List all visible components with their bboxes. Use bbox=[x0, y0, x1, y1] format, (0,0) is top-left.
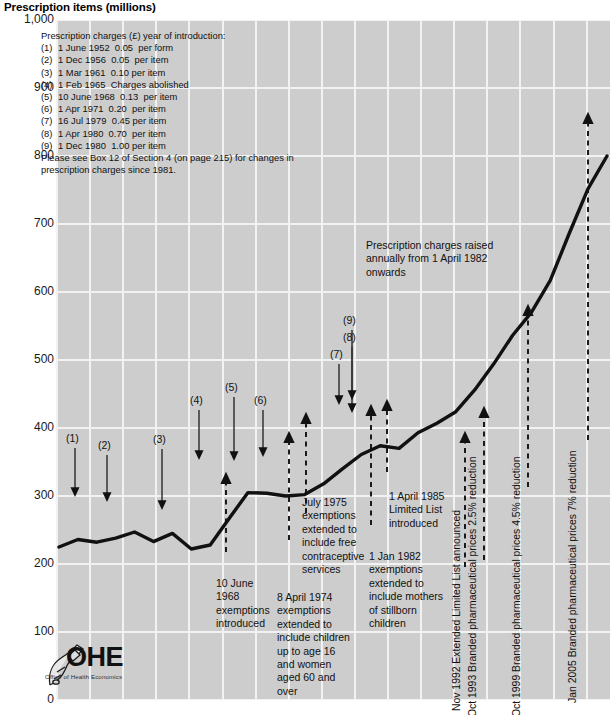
annotation-line: onwards bbox=[366, 266, 493, 279]
y-axis-tick-label: 200 bbox=[6, 556, 54, 570]
legend-row: (7)16 Jul 1979 0.45 per item bbox=[41, 115, 294, 127]
annotation-oct-1993-branded-prices: Oct 1993 Branded pharmaceutical prices 2… bbox=[467, 457, 478, 715]
legend-row: (4)1 Feb 1965 Charges abolished bbox=[41, 79, 294, 91]
annotation-jan-2005-branded-prices: Jan 2005 Branded pharmaceutical prices 7… bbox=[567, 451, 578, 703]
annotation-prescription-charges-raised: Prescription charges raisedannually from… bbox=[366, 239, 493, 279]
charge-marker-label: (7) bbox=[330, 348, 343, 360]
legend-row: (9)1 Dec 1980 1.00 per item bbox=[41, 140, 294, 152]
legend-row: (8)1 Apr 1980 0.70 per item bbox=[41, 128, 294, 140]
charge-marker-label: (3) bbox=[153, 433, 166, 445]
annotation-line: over bbox=[277, 685, 350, 698]
annotation-line: aged 60 and bbox=[277, 671, 350, 684]
charge-marker-label: (5) bbox=[225, 381, 238, 393]
annotation-line: introduced bbox=[389, 517, 444, 530]
annotation-line: services bbox=[302, 563, 364, 576]
annotation-line: extended to bbox=[302, 523, 364, 536]
annotation-line: of stillborn bbox=[369, 604, 443, 617]
annotation-line: include mothers bbox=[369, 590, 443, 603]
annotation-oct-1999-branded-prices: Oct 1999 Branded pharmaceutical prices 4… bbox=[511, 457, 522, 715]
y-axis-tick-label: 300 bbox=[6, 488, 54, 502]
charge-marker-label: (1) bbox=[66, 432, 79, 444]
y-axis-tick-label: 600 bbox=[6, 284, 54, 298]
annotation-july-1975-exemptions: July 1975exemptionsextended toinclude fr… bbox=[302, 496, 364, 576]
y-axis-tick-label: 1,000 bbox=[6, 12, 54, 26]
legend-footnote: Please see Box 12 of Section 4 (on page … bbox=[41, 152, 294, 164]
annotation-line: extended to bbox=[277, 618, 350, 631]
y-axis-tick-label: 100 bbox=[6, 624, 54, 638]
annotation-line: Prescription charges raised bbox=[366, 239, 493, 252]
charge-marker-label: (8) bbox=[343, 331, 356, 343]
annotation-ten-june-1968-exemptions: 10 June1968exemptionsintroduced bbox=[216, 577, 270, 631]
annotation-line: 1 April 1985 bbox=[389, 490, 444, 503]
annotation-line: children bbox=[369, 617, 443, 630]
annotation-line: exemptions bbox=[216, 604, 270, 617]
legend-footnote: prescription charges since 1981. bbox=[41, 164, 294, 176]
page-title: Prescription items (millions) bbox=[4, 1, 156, 13]
annotation-line: July 1975 bbox=[302, 496, 364, 509]
annotation-line: 8 April 1974 bbox=[277, 591, 350, 604]
annotation-nov-1992-extended-limited-list: Nov 1992 Extended Limited List announced bbox=[451, 510, 462, 711]
annotation-line: annually from 1 April 1982 bbox=[366, 252, 493, 265]
annotation-line: Limited List bbox=[389, 503, 444, 516]
annotation-line: extended to bbox=[369, 577, 443, 590]
annotation-line: contraceptive bbox=[302, 550, 364, 563]
annotation-line: exemptions bbox=[302, 509, 364, 522]
legend-row: (2)1 Dec 1956 0.05 per item bbox=[41, 54, 294, 66]
annotation-line: up to age 16 bbox=[277, 645, 350, 658]
annotation-line: 1968 bbox=[216, 590, 270, 603]
annotation-line: 1 Jan 1982 bbox=[369, 550, 443, 563]
annotation-line: exemptions bbox=[369, 563, 443, 576]
annotation-one-jan-1982-exemptions: 1 Jan 1982exemptionsextended toinclude m… bbox=[369, 550, 443, 630]
charge-marker-label: (4) bbox=[190, 394, 203, 406]
legend-box: Prescription charges (£) year of introdu… bbox=[41, 30, 294, 176]
y-axis-tick-label: 700 bbox=[6, 216, 54, 230]
charge-marker-label: (2) bbox=[98, 439, 111, 451]
annotation-line: include children bbox=[277, 631, 350, 644]
annotation-eight-april-1974-exemptions: 8 April 1974exemptionsextended toinclude… bbox=[277, 591, 350, 698]
annotation-line: 10 June bbox=[216, 577, 270, 590]
annotation-one-april-1985-limited-list: 1 April 1985Limited Listintroduced bbox=[389, 490, 444, 530]
legend-row: (5)10 June 1968 0.13 per item bbox=[41, 91, 294, 103]
legend-row: (3)1 Mar 1961 0.10 per item bbox=[41, 67, 294, 79]
charge-marker-label: (9) bbox=[343, 314, 356, 326]
y-axis-tick-label: 0 bbox=[6, 692, 54, 706]
legend-row: (6)1 Apr 1971 0.20 per item bbox=[41, 103, 294, 115]
y-axis-tick-label: 400 bbox=[6, 420, 54, 434]
ohe-logo-text: OHE bbox=[66, 642, 123, 673]
y-axis-tick-label: 500 bbox=[6, 352, 54, 366]
annotation-line: exemptions bbox=[277, 604, 350, 617]
legend-heading: Prescription charges (£) year of introdu… bbox=[41, 30, 294, 42]
ohe-logo-subtitle: Office of Health Economics bbox=[45, 673, 122, 680]
annotation-line: introduced bbox=[216, 617, 270, 630]
legend-row: (1)1 June 1952 0.05 per form bbox=[41, 42, 294, 54]
chart-page: Prescription items (millions) 1,00090080… bbox=[0, 0, 610, 715]
charge-marker-label: (6) bbox=[254, 394, 267, 406]
annotation-line: and women bbox=[277, 658, 350, 671]
annotation-line: include free bbox=[302, 536, 364, 549]
